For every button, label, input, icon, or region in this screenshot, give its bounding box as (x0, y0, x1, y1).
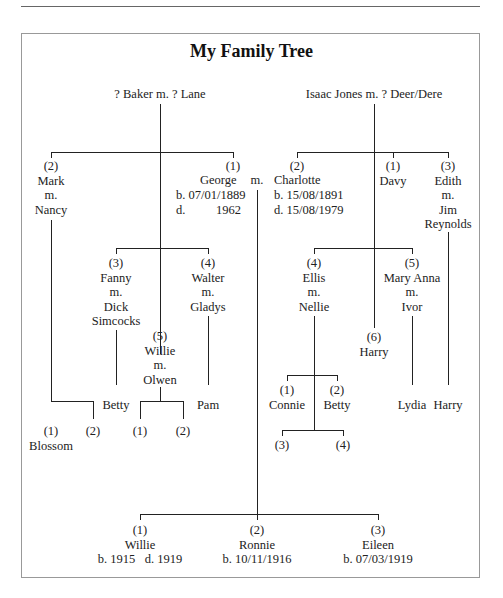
pam: Pam (197, 398, 219, 413)
mark-line (51, 220, 52, 401)
betty-ellis-node: (2)Betty (323, 383, 350, 412)
mary-anna-tick (412, 248, 413, 254)
willie-child-1: (1) (133, 424, 148, 439)
harry-reynolds: Harry (433, 398, 462, 413)
jones-couple: Isaac Jones m. ? Deer/Dere (306, 87, 442, 102)
charlotte-born: b. 15/08/1891 (274, 188, 343, 203)
page-title: My Family Tree (0, 41, 503, 62)
connie-node: (1)Connie (269, 383, 305, 412)
connie-tick (287, 375, 288, 381)
willie-1-tick (140, 401, 141, 419)
willie-line (160, 387, 161, 401)
ellis-line (314, 316, 315, 430)
fanny-tick (116, 248, 117, 254)
walter-node: (4)Walter m.Gladys (190, 256, 225, 314)
mary-anna-line (412, 316, 413, 385)
willie-child-2: (2) (176, 424, 191, 439)
mark-child-2: (2) (86, 424, 101, 439)
george-num: (1) (226, 159, 241, 174)
ellis-bar-2 (282, 430, 343, 431)
ellis-tick (314, 248, 315, 254)
fanny-line (116, 330, 117, 385)
baker-stem (160, 104, 161, 354)
mark-children-bar (51, 401, 93, 402)
baker-couple: ? Baker m. ? Lane (114, 87, 205, 102)
gc-1-tick (140, 514, 141, 520)
jones-stem (374, 104, 375, 328)
ellis-4-tick (343, 430, 344, 436)
mark-node: (2)Mark m.Nancy (35, 159, 68, 217)
george-born: b. 07/01/1889 (176, 188, 245, 203)
ellis-child-3: (3) (275, 438, 290, 453)
mary-anna-node: (5)Mary Anna m.Ivor (384, 256, 441, 314)
fanny-node: (3)Fanny m.Dick Simcocks (92, 256, 141, 329)
charlotte-name: Charlotte (274, 173, 321, 188)
ellis-bar-1 (287, 375, 337, 376)
davy-node: (1)Davy (379, 159, 406, 188)
jones-bar (297, 152, 448, 153)
charlotte-tick (297, 152, 298, 158)
jones-bar-2 (314, 248, 412, 249)
ellis-node: (4)Ellis m.Nellie (299, 256, 330, 314)
ellis-3-tick (282, 430, 283, 436)
blossom-node: (1)Blossom (29, 424, 73, 453)
willie-children-bar (140, 401, 183, 402)
edith-line (448, 232, 449, 385)
edith-tick (448, 152, 449, 158)
george-died-year: 1962 (216, 203, 241, 218)
betty-fanny: Betty (102, 398, 129, 413)
willie-node: (5)Willie m.Olwen (143, 329, 176, 387)
charlotte-died: d. 15/08/1979 (274, 203, 343, 218)
betty-tick (337, 375, 338, 381)
davy-tick (393, 152, 394, 158)
gc-child-willie: (1) Willie b. 1915 d. 1919 (98, 523, 182, 567)
gc-children-bar (140, 514, 378, 515)
george-charlotte-marriage: m. (251, 173, 264, 188)
gc-child-eileen: (3) Eileen b. 07/03/1919 (343, 523, 412, 567)
walter-tick (208, 248, 209, 254)
willie-2-tick (183, 401, 184, 419)
lydia: Lydia (398, 398, 426, 413)
walter-line (208, 316, 209, 385)
george-died-label: d. (176, 203, 185, 218)
baker-bar-2 (116, 248, 208, 249)
baker-bar (51, 152, 233, 153)
gc-3-tick (378, 514, 379, 520)
mark-tick (51, 152, 52, 158)
charlotte-num: (2) (290, 159, 305, 174)
gc-2-tick (257, 514, 258, 520)
header-rule (21, 6, 480, 7)
george-name: George (200, 173, 237, 188)
gc-child-ronnie: (2) Ronnie b. 10/11/1916 (223, 523, 292, 567)
edith-node: (3)Edith m.Jim Reynolds (424, 159, 471, 232)
harry-node: (6)Harry (359, 330, 388, 359)
marriage-line (257, 190, 258, 514)
ellis-child-4: (4) (336, 438, 351, 453)
george-tick (233, 152, 234, 158)
mark-2-tick (93, 401, 94, 419)
